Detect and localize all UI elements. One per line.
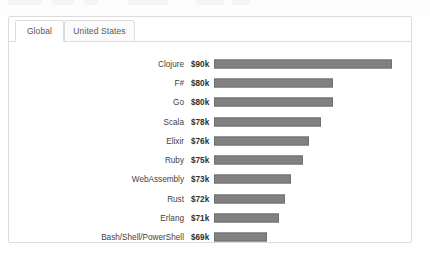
bar-track bbox=[214, 136, 402, 145]
bar-value-label: $71k bbox=[191, 214, 209, 223]
bar-value-label: $80k bbox=[191, 78, 209, 87]
bar-category-label: Elixir bbox=[166, 136, 184, 145]
bar-track bbox=[214, 98, 402, 107]
bar-row: Rust$72k bbox=[9, 189, 411, 208]
bar-track bbox=[214, 78, 402, 87]
bar-track bbox=[214, 117, 402, 126]
bar bbox=[214, 175, 291, 184]
bar-row: Ruby$75k bbox=[9, 150, 411, 169]
bar-value-label: $90k bbox=[191, 59, 209, 68]
bar-track bbox=[214, 214, 402, 223]
bar bbox=[214, 233, 267, 242]
bar-row: Scala$78k bbox=[9, 112, 411, 131]
bar-category-label: Bash/Shell/PowerShell bbox=[101, 233, 184, 242]
bar-row: F#$80k bbox=[9, 73, 411, 92]
bar-row: Bash/Shell/PowerShell$69k bbox=[9, 228, 411, 247]
bar-rows: Clojure$90kF#$80kGo$80kScala$78kElixir$7… bbox=[9, 54, 411, 247]
bar bbox=[214, 136, 309, 145]
bar-value-label: $69k bbox=[191, 233, 209, 242]
tab-global-label: Global bbox=[27, 26, 52, 36]
bar bbox=[214, 117, 321, 126]
bar bbox=[214, 59, 392, 68]
bar-track bbox=[214, 175, 402, 184]
tab-bar: Global United States bbox=[9, 17, 411, 42]
screenshot-root: Global United States Clojure$90kF#$80kGo… bbox=[0, 0, 430, 255]
bar-category-label: Erlang bbox=[160, 214, 184, 223]
bar-category-label: Ruby bbox=[165, 156, 184, 165]
bar-value-label: $75k bbox=[191, 156, 209, 165]
bar bbox=[214, 214, 279, 223]
bar-value-label: $80k bbox=[191, 98, 209, 107]
bar-track bbox=[214, 156, 402, 165]
bar-category-label: Rust bbox=[167, 194, 184, 203]
salary-bar-chart: Clojure$90kF#$80kGo$80kScala$78kElixir$7… bbox=[9, 42, 411, 242]
bar-value-label: $72k bbox=[191, 194, 209, 203]
bar bbox=[214, 78, 333, 87]
tab-global[interactable]: Global bbox=[15, 20, 64, 42]
bar-value-label: $76k bbox=[191, 136, 209, 145]
bar-row: Clojure$90k bbox=[9, 54, 411, 73]
bar-row: WebAssembly$73k bbox=[9, 170, 411, 189]
bar-value-label: $78k bbox=[191, 117, 209, 126]
cut-off-content-sliver bbox=[0, 0, 430, 9]
tab-united-states[interactable]: United States bbox=[64, 20, 135, 42]
bar-row: Go$80k bbox=[9, 93, 411, 112]
bar-category-label: F# bbox=[174, 78, 184, 87]
bar-track bbox=[214, 233, 402, 242]
tab-united-states-label: United States bbox=[73, 26, 125, 36]
bar bbox=[214, 156, 303, 165]
bar bbox=[214, 194, 285, 203]
bar-row: Elixir$76k bbox=[9, 131, 411, 150]
bar-track bbox=[214, 59, 402, 68]
bar-category-label: Go bbox=[173, 98, 184, 107]
bar-category-label: Scala bbox=[164, 117, 184, 126]
bar bbox=[214, 98, 333, 107]
bar-category-label: WebAssembly bbox=[132, 175, 184, 184]
bar-category-label: Clojure bbox=[158, 59, 184, 68]
bar-row: Erlang$71k bbox=[9, 208, 411, 227]
salary-card: Global United States Clojure$90kF#$80kGo… bbox=[8, 16, 412, 243]
bar-track bbox=[214, 194, 402, 203]
bar-value-label: $73k bbox=[191, 175, 209, 184]
